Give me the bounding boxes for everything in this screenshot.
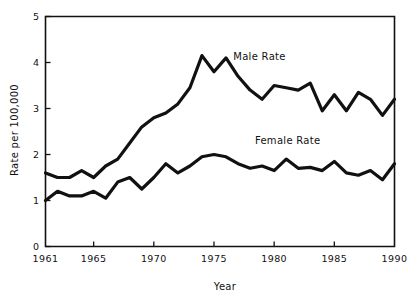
x-axis-tick-labels: 1961196519701975198019851990	[33, 253, 408, 264]
series-line-male-rate	[46, 56, 395, 178]
x-tick-label: 1975	[201, 253, 227, 264]
axis-box	[46, 17, 395, 247]
y-tick-label: 2	[33, 149, 39, 160]
chart-figure: 012345 1961196519701975198019851990 Male…	[0, 0, 415, 299]
x-tick-label: 1980	[261, 253, 287, 264]
series-line-female-rate	[46, 155, 395, 201]
y-tick-label: 0	[33, 241, 39, 252]
x-tick-label: 1985	[321, 253, 347, 264]
y-tick-label: 3	[33, 103, 39, 114]
data-series-group	[46, 56, 395, 201]
series-label-female-rate: Female Rate	[255, 135, 321, 146]
plot-frame	[46, 17, 395, 247]
series-annotation-group: Male RateFemale Rate	[233, 51, 320, 146]
y-axis-tick-labels: 012345	[33, 11, 39, 252]
line-chart-svg: 012345 1961196519701975198019851990 Male…	[0, 0, 415, 299]
y-axis-title: Rate per 100,000	[9, 84, 20, 176]
x-tick-label: 1965	[81, 253, 107, 264]
x-tick-label: 1970	[141, 253, 167, 264]
y-tick-label: 1	[33, 195, 39, 206]
y-tick-label: 4	[33, 57, 39, 68]
x-tick-label: 1990	[382, 253, 408, 264]
y-tick-label: 5	[33, 11, 39, 22]
x-tick-label: 1961	[33, 253, 59, 264]
x-axis-title: Year	[213, 281, 237, 292]
series-label-male-rate: Male Rate	[233, 51, 285, 62]
